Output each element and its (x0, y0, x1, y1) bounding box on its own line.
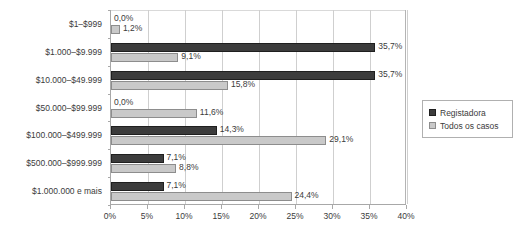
category-label: $1–$999 (0, 19, 102, 29)
bar-value-label: 9,1% (181, 52, 200, 61)
category-label: $1.000–$9.999 (0, 47, 102, 57)
bar-row: 0,0%1,2% (111, 10, 406, 38)
x-axis-tick (110, 205, 111, 209)
bar-value-label: 14,3% (220, 125, 244, 134)
bar-value-label: 8,8% (179, 163, 198, 172)
x-axis-tick-label: 35% (360, 211, 377, 221)
x-axis-tick-label: 30% (323, 211, 340, 221)
category-label: $500.000–$999.999 (0, 158, 102, 168)
x-axis-tick (295, 205, 296, 209)
x-axis-tick (258, 205, 259, 209)
bar-todos-os-casos (111, 109, 197, 118)
y-axis-tick (108, 121, 111, 122)
bar-row: 35,7%9,1% (111, 38, 406, 66)
bar-value-label: 7,1% (167, 181, 186, 190)
bar-value-label: 29,1% (329, 135, 353, 144)
bar-registadora (111, 126, 217, 135)
y-axis-tick (108, 94, 111, 95)
plot-area: 0,0%1,2%35,7%9,1%35,7%15,8%0,0%11,6%14,3… (110, 10, 406, 205)
y-axis-tick (108, 10, 111, 11)
bar-row: 35,7%15,8% (111, 66, 406, 94)
x-axis-tick-label: 10% (175, 211, 192, 221)
category-label: $50.000–$99.999 (0, 103, 102, 113)
x-axis-tick (369, 205, 370, 209)
legend-item-todos-os-casos[interactable]: Todos os casos (429, 119, 506, 132)
x-axis-tick (406, 205, 407, 209)
legend-item-registadora[interactable]: Registadora (429, 106, 506, 119)
bar-registadora (111, 43, 375, 52)
bar-row: 7,1%24,4% (111, 177, 406, 205)
bar-todos-os-casos (111, 53, 178, 62)
category-axis-labels: $1–$999 $1.000–$9.999 $10.000–$49.999 $5… (0, 10, 106, 205)
chart-legend: Registadora Todos os casos (422, 100, 513, 138)
bar-value-label: 0,0% (114, 14, 133, 23)
x-axis-tick (221, 205, 222, 209)
x-axis-tick-label: 15% (212, 211, 229, 221)
bar-row: 14,3%29,1% (111, 121, 406, 149)
y-axis-tick (108, 149, 111, 150)
x-axis-tick (184, 205, 185, 209)
y-axis-tick (108, 66, 111, 67)
y-axis-tick (108, 38, 111, 39)
y-axis-tick (108, 177, 111, 178)
bar-value-label: 11,6% (200, 108, 223, 117)
bar-todos-os-casos (111, 164, 176, 173)
x-axis-tick (332, 205, 333, 209)
gridline (407, 10, 408, 204)
bar-value-label: 24,4% (295, 191, 319, 200)
bar-todos-os-casos (111, 192, 292, 201)
x-axis-tick-label: 5% (141, 211, 153, 221)
bar-value-label: 35,7% (378, 42, 402, 51)
bar-value-label: 15,8% (231, 80, 255, 89)
legend-item-label: Todos os casos (440, 121, 499, 131)
legend-swatch-icon (429, 109, 436, 116)
x-axis-tick (147, 205, 148, 209)
bar-chart: $1–$999 $1.000–$9.999 $10.000–$49.999 $5… (0, 0, 527, 240)
x-axis: 0%5%10%15%20%25%30%35%40% (110, 205, 406, 229)
bar-value-label: 1,2% (123, 24, 142, 33)
bar-todos-os-casos (111, 81, 228, 90)
bar-registadora (111, 182, 164, 191)
category-label: $1.000.000 e mais (0, 186, 102, 196)
bar-todos-os-casos (111, 25, 120, 34)
bar-todos-os-casos (111, 136, 326, 145)
category-label: $100.000–$499.999 (0, 130, 102, 140)
legend-swatch-icon (429, 122, 436, 129)
category-label: $10.000–$49.999 (0, 75, 102, 85)
x-axis-tick-label: 0% (104, 211, 116, 221)
bar-registadora (111, 154, 164, 163)
bar-value-label: 7,1% (167, 153, 186, 162)
x-axis-tick-label: 40% (397, 211, 414, 221)
x-axis-tick-label: 20% (249, 211, 266, 221)
bar-row: 0,0%11,6% (111, 94, 406, 122)
bar-row: 7,1%8,8% (111, 149, 406, 177)
legend-item-label: Registadora (440, 108, 486, 118)
x-axis-tick-label: 25% (286, 211, 303, 221)
bar-value-label: 35,7% (378, 70, 402, 79)
bar-value-label: 0,0% (114, 98, 133, 107)
